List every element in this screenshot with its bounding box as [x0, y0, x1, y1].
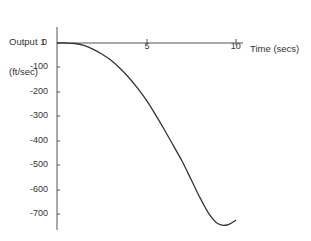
output-1-line [57, 43, 236, 225]
line-chart [0, 0, 311, 241]
axes [57, 27, 243, 230]
